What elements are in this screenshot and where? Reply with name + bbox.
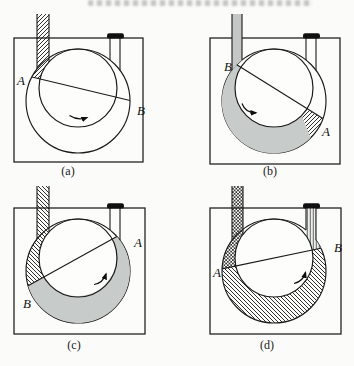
panel-b: B A (b) [210,14,340,178]
vane-end-label-left: A [16,73,25,88]
outlet-valve-cap [303,203,320,208]
pump-diagram-svg: A B (a) B A (b) [0,0,354,366]
outlet-valve-cap [107,203,124,208]
panel-caption: (b) [263,164,277,178]
vane-end-label-right: A [133,235,142,250]
figure-rotary-vane-pump: A B (a) B A (b) [0,0,354,366]
panel-d: A B (d) [210,186,342,352]
panel-a: A B (a) [14,14,145,178]
panel-caption: (c) [67,338,80,352]
vane-end-label-left: B [224,59,232,74]
vane-end-label-left: A [212,265,221,280]
outlet-valve-cap [107,33,124,38]
vane-end-label-left: B [23,296,31,311]
vane-end-label-right: A [321,124,330,139]
panel-c: B A (c) [14,186,145,352]
outlet-valve-cap [303,33,320,38]
vane-end-label-right: B [334,240,342,255]
vane-end-label-right: B [137,103,145,118]
panel-caption: (d) [260,338,274,352]
panel-caption: (a) [61,164,74,178]
